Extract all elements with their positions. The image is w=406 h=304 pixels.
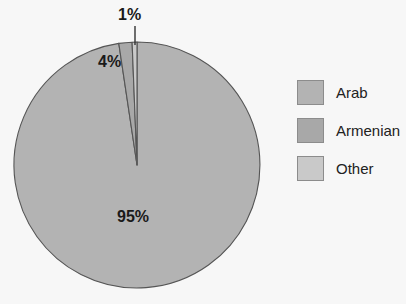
legend-label-armenian: Armenian <box>336 123 400 138</box>
legend-label-arab: Arab <box>336 85 368 100</box>
legend-swatch-armenian-icon <box>297 118 324 143</box>
legend-item-other[interactable]: Other <box>297 152 406 184</box>
pie-chart: 1% 4% 95% Arab Armenian Other <box>0 0 406 304</box>
legend-label-other: Other <box>336 161 374 176</box>
legend-swatch-arab-icon <box>297 80 324 105</box>
legend-item-armenian[interactable]: Armenian <box>297 114 406 146</box>
legend-swatch-other-icon <box>297 156 324 181</box>
chart-legend: Arab Armenian Other <box>297 76 406 184</box>
slice-label-arab: 95% <box>117 208 149 226</box>
legend-item-arab[interactable]: Arab <box>297 76 406 108</box>
slice-label-other: 1% <box>118 6 141 24</box>
slice-label-armenian: 4% <box>98 53 121 71</box>
